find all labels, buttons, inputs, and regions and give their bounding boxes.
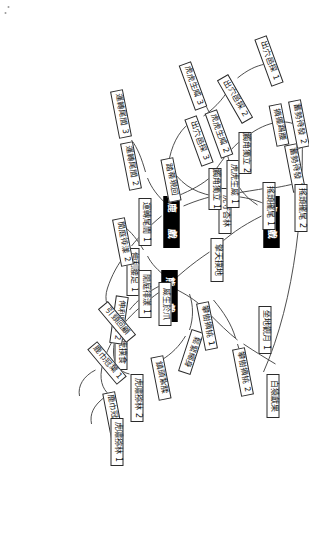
node-yao-tou-bai-wei-1[interactable]: 搖頭擺尾 1 [262,182,275,230]
node-hu-xiao-yuan-lin-1[interactable]: 虎嘯猕林 1 [110,418,123,466]
edge-howl-link2 [79,370,95,396]
node-wei-sheng-yu-zhua[interactable]: 威生於爪 [158,282,171,326]
scan-speck [4,12,6,14]
root-node-deer[interactable]: 鹿 戲 [163,196,179,248]
edge-bear-9 [161,336,185,360]
diagram-stage: 虎 戲 鹿 戲 熊 戲 虎守杏林 出穴邑探 1 出穴邑探 2 出穴邑探 3 踏蒂… [0,0,309,540]
edge-layer [0,0,309,540]
scan-speck [7,6,9,8]
node-chu-jiao-du-li-2[interactable]: 觸角獨立 2 [238,132,251,174]
node-zuo-di-guan-yue-1[interactable]: 坐地觀月 1 [258,306,271,354]
node-hu-xiao-yuan-lin-2[interactable]: 虎嘯猕林 2 [130,374,143,422]
node-chu-jiao-du-li-1[interactable]: 觸角獨立 1 [208,168,221,210]
node-yao-tou-bai-wei-2[interactable]: 搖頭擺尾 2 [294,184,307,232]
node-hu-hu-sheng-wei-1[interactable]: 虎虎生威 1 [226,160,239,208]
node-bai-yuan-xian-guo[interactable]: 白猿獻果 [266,374,279,418]
node-yun-zhuan-wei-lv-1[interactable]: 運轉尾閭 1 [138,198,151,246]
edge-tiger-5 [237,64,265,78]
node-qing-tian-pu-di[interactable]: 擎天撲地 [210,238,223,282]
node-xian-ting-pai-huai-1[interactable]: 閒庭徘漾 1 [138,270,151,318]
diagram-canvas: 虎 戲 鹿 戲 熊 戲 虎守杏林 出穴邑探 1 出穴邑探 2 出穴邑探 3 踏蒂… [0,0,309,540]
edge-deer-6 [177,176,211,196]
edge-bear-8 [189,294,192,330]
edge-howl-link [91,398,104,424]
edge-bear-10 [213,300,235,338]
